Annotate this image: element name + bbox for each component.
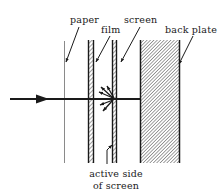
label-paper: paper <box>70 14 99 25</box>
back-plate-fill <box>140 40 180 163</box>
label-active-side-line2: of screen <box>93 180 139 191</box>
detector-stack-diagram: paper film screen back plate active side… <box>0 0 222 195</box>
label-active-side-line1: active side <box>89 168 143 179</box>
label-screen: screen <box>124 14 157 25</box>
label-film: film <box>101 24 120 35</box>
component-film <box>88 40 94 163</box>
component-back-plate <box>140 40 180 163</box>
label-back-plate: back plate <box>165 24 217 35</box>
component-screen <box>112 40 117 163</box>
figure-container: paper film screen back plate active side… <box>0 0 222 195</box>
